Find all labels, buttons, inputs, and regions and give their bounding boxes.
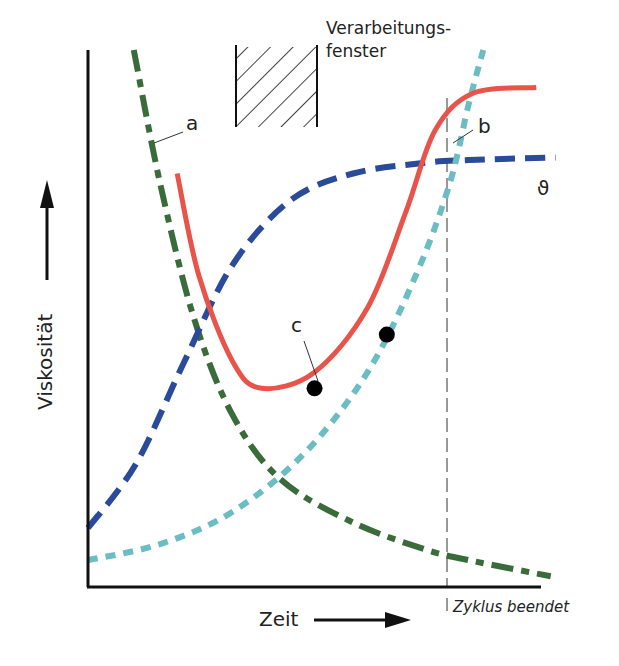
marker-point-2 — [379, 327, 395, 343]
y-axis-arrow-head — [40, 180, 54, 208]
series-line-theta — [88, 157, 556, 528]
cycle-end-label: Zyklus beendet — [452, 598, 570, 616]
x-axis-label: Zeit — [259, 607, 299, 631]
window-label-line2: fenster — [326, 41, 386, 61]
y-axis-label: Viskosität — [33, 314, 57, 410]
viscosity-diagram: Verarbeitungs- fenster Viskosität Zeit Z… — [0, 0, 619, 666]
series-leader-a — [154, 132, 183, 143]
processing-window-hatch — [236, 47, 317, 127]
series-label-a: a — [186, 111, 198, 135]
window-label-line1: Verarbeitungs- — [326, 18, 451, 38]
series-label-c: c — [291, 313, 302, 337]
series-label-b: b — [478, 114, 491, 138]
x-axis-arrow-head — [385, 612, 411, 628]
marker-point-1 — [307, 380, 323, 396]
series-label-theta: ϑ — [537, 176, 549, 200]
